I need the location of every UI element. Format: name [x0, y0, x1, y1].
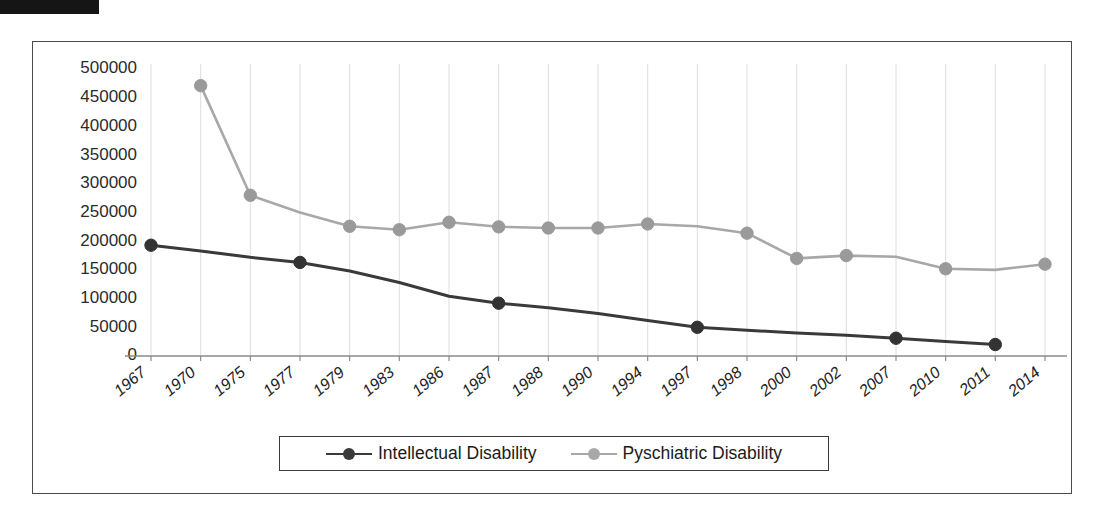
line-chart-svg: 5000004500004000003500003000002500002000…	[33, 42, 1073, 495]
data-point-marker	[244, 189, 256, 201]
y-axis-tick-label: 350000	[80, 145, 137, 164]
x-axis-tick-label: 1988	[508, 363, 546, 399]
legend-item-intellectual: Intellectual Disability	[326, 443, 537, 464]
y-axis-tick-label: 200000	[80, 231, 137, 250]
legend-line-marker-icon	[571, 447, 617, 461]
x-axis-tick-labels: 1967197019751977197919831986198719881990…	[111, 363, 1043, 400]
data-point-marker	[393, 224, 405, 236]
data-point-marker	[145, 239, 157, 251]
y-axis-tick-label: 0	[128, 345, 137, 364]
data-point-marker	[790, 252, 802, 264]
x-axis-tick-label: 1983	[359, 363, 397, 399]
x-axis-tick-label: 2010	[905, 363, 944, 400]
chart-legend: Intellectual Disability Pyschiatric Disa…	[279, 436, 829, 471]
data-point-marker	[691, 321, 703, 333]
y-axis-tick-labels: 5000004500004000003500003000002500002000…	[80, 58, 137, 364]
y-axis-tick-label: 450000	[80, 87, 137, 106]
x-axis-tick-label: 2000	[756, 363, 795, 400]
y-axis-tick-label: 300000	[80, 173, 137, 192]
chart-frame: 5000004500004000003500003000002500002000…	[32, 41, 1072, 494]
faint-caption-text	[104, 0, 1004, 15]
y-axis-tick-label: 100000	[80, 288, 137, 307]
data-point-marker	[492, 297, 504, 309]
y-axis-tick-label: 150000	[80, 259, 137, 278]
x-axis-tick-label: 2002	[805, 363, 844, 400]
data-point-marker	[939, 263, 951, 275]
y-axis-tick-label: 50000	[90, 317, 137, 336]
x-axis-tick-label: 1979	[309, 363, 347, 399]
x-axis-tick-label: 1977	[260, 363, 299, 400]
legend-line-marker-icon	[326, 447, 372, 461]
x-axis-tick-label: 1998	[707, 363, 745, 399]
x-axis-tick-label: 2011	[955, 363, 993, 399]
data-point-marker	[741, 227, 753, 239]
series-line	[151, 245, 995, 344]
x-axis-tick-label: 1997	[657, 363, 696, 400]
data-point-marker	[294, 256, 306, 268]
x-axis-tick-label: 1967	[111, 363, 150, 400]
legend-item-psychiatric: Pyschiatric Disability	[571, 443, 782, 464]
data-point-marker	[194, 79, 206, 91]
data-point-marker	[592, 222, 604, 234]
plot-area: 5000004500004000003500003000002500002000…	[33, 42, 1073, 495]
data-point-marker	[443, 216, 455, 228]
data-point-marker	[542, 222, 554, 234]
x-axis-tick-label: 2014	[1004, 363, 1043, 400]
legend-label-intellectual: Intellectual Disability	[378, 443, 537, 464]
x-axis-tick-label: 1994	[607, 363, 645, 399]
x-axis-tick-marks	[151, 356, 1045, 361]
data-point-marker	[492, 221, 504, 233]
x-axis-tick-label: 1987	[458, 363, 497, 400]
data-point-marker	[641, 218, 653, 230]
x-axis-tick-label: 1986	[409, 363, 447, 399]
x-axis-tick-label: 1990	[558, 363, 596, 399]
x-axis-tick-label: 1975	[210, 363, 248, 399]
y-axis-tick-label: 400000	[80, 116, 137, 135]
x-axis-tick-label: 2007	[855, 363, 895, 400]
series-psychiatric	[194, 79, 1051, 275]
y-axis-tick-label: 500000	[80, 58, 137, 77]
data-point-marker	[989, 338, 1001, 350]
data-point-marker	[1039, 258, 1051, 270]
data-point-marker	[890, 332, 902, 344]
y-axis-tick-label: 250000	[80, 202, 137, 221]
redacted-caption-bar	[0, 0, 99, 14]
page-root: 5000004500004000003500003000002500002000…	[0, 0, 1106, 516]
data-point-marker	[840, 249, 852, 261]
legend-label-psychiatric: Pyschiatric Disability	[623, 443, 782, 464]
x-axis-tick-label: 1970	[160, 363, 198, 399]
data-point-marker	[343, 220, 355, 232]
series-line	[201, 86, 1045, 270]
